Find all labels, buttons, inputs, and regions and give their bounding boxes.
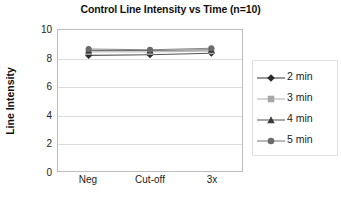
data-point [208, 45, 214, 51]
legend-marker-icon [256, 91, 286, 103]
legend-item-label: 4 min [287, 112, 313, 124]
x-axis-tick-labels: NegCut-off3x [57, 174, 243, 190]
legend-item-label: 5 min [287, 133, 313, 145]
y-axis-tick-labels: 1086420 [28, 0, 52, 218]
legend-marker-icon [256, 112, 286, 124]
data-series-layer [58, 30, 242, 171]
x-axis-tick-label: 3x [207, 174, 218, 185]
plot-area [57, 29, 243, 172]
x-axis-tick-label: Cut-off [135, 174, 165, 185]
y-axis-tick-label: 6 [30, 81, 52, 92]
y-axis-tick-label: 2 [30, 138, 52, 149]
legend-item-label: 3 min [287, 91, 313, 103]
chart-legend: 2 min3 min4 min5 min [252, 60, 338, 156]
chart-container: Control Line Intensity vs Time (n=10) Li… [0, 0, 341, 218]
x-axis-tick-label: Neg [79, 174, 97, 185]
legend-item-3-min[interactable]: 3 min [253, 86, 337, 107]
y-axis-tick-label: 4 [30, 109, 52, 120]
y-axis-title-wrap: Line Intensity [2, 28, 18, 173]
y-axis-title: Line Intensity [4, 67, 16, 135]
y-axis-tick-label: 10 [30, 24, 52, 35]
y-axis-tick-label: 8 [30, 52, 52, 63]
legend-marker-icon [256, 70, 286, 82]
legend-item-5-min[interactable]: 5 min [253, 128, 337, 149]
legend-marker-icon [256, 133, 286, 145]
y-axis-tick-label: 0 [30, 167, 52, 178]
legend-item-label: 2 min [287, 70, 313, 82]
legend-item-2-min[interactable]: 2 min [253, 65, 337, 86]
data-point [86, 46, 92, 52]
data-point [147, 47, 153, 53]
legend-item-4-min[interactable]: 4 min [253, 107, 337, 128]
